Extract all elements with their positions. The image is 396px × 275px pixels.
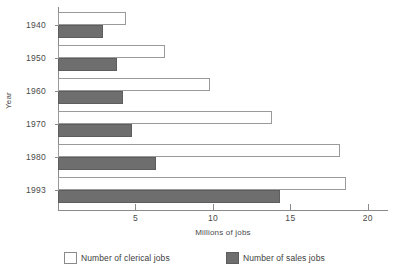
bar-1980-clerical bbox=[58, 144, 340, 157]
bar-1940-sales bbox=[58, 25, 103, 38]
bar-1960-sales bbox=[58, 91, 123, 104]
y-axis-tick-label-1950: 1950 bbox=[12, 53, 46, 63]
y-axis-tick-label-1960: 1960 bbox=[12, 86, 46, 96]
x-axis-tick-20 bbox=[368, 204, 369, 211]
x-axis-tick-label-20: 20 bbox=[353, 213, 383, 223]
chart-legend: Number of clerical jobsNumber of sales j… bbox=[58, 252, 396, 270]
y-axis-tick-label-1980: 1980 bbox=[12, 152, 46, 162]
x-axis-tick-label-5: 5 bbox=[120, 213, 150, 223]
y-axis-tick-label-1970: 1970 bbox=[12, 119, 46, 129]
y-axis-tick-1950 bbox=[55, 58, 59, 59]
bar-1960-clerical bbox=[58, 78, 210, 91]
y-axis-tick-1980 bbox=[55, 157, 59, 158]
bar-1993-sales bbox=[58, 190, 280, 203]
x-axis-line bbox=[58, 210, 388, 211]
legend-label-sales: Number of sales jobs bbox=[243, 253, 325, 263]
legend-swatch-sales bbox=[226, 252, 239, 264]
bar-1970-sales bbox=[58, 124, 132, 137]
y-axis-tick-label-1940: 1940 bbox=[12, 20, 46, 30]
x-axis-tick-15 bbox=[290, 204, 291, 211]
bar-1940-clerical bbox=[58, 12, 126, 25]
y-axis-tick-label-1993: 1993 bbox=[12, 185, 46, 195]
bar-1950-clerical bbox=[58, 45, 165, 58]
plot-area: 194019501960197019801993 5101520 bbox=[58, 7, 388, 210]
legend-item-clerical: Number of clerical jobs bbox=[64, 252, 170, 264]
bar-1950-sales bbox=[58, 58, 117, 71]
legend-swatch-clerical bbox=[64, 252, 77, 264]
x-axis-tick-label-10: 10 bbox=[198, 213, 228, 223]
bar-1970-clerical bbox=[58, 111, 272, 124]
bar-chart: Year 194019501960197019801993 5101520 Mi… bbox=[0, 0, 396, 275]
y-axis-tick-1970 bbox=[55, 124, 59, 125]
y-axis-tick-1940 bbox=[55, 25, 59, 26]
legend-label-clerical: Number of clerical jobs bbox=[81, 253, 170, 263]
x-axis-title: Millions of jobs bbox=[58, 228, 388, 237]
y-axis-tick-1993 bbox=[55, 190, 59, 191]
x-axis-tick-10 bbox=[213, 204, 214, 211]
y-axis-tick-1960 bbox=[55, 91, 59, 92]
legend-item-sales: Number of sales jobs bbox=[226, 252, 325, 264]
bar-1980-sales bbox=[58, 157, 156, 170]
bar-1993-clerical bbox=[58, 177, 346, 190]
y-axis-title: Year bbox=[4, 77, 13, 125]
x-axis-tick-label-15: 15 bbox=[275, 213, 305, 223]
x-axis-tick-5 bbox=[135, 204, 136, 211]
